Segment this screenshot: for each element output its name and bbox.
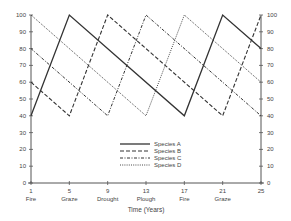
line-chart: 0010102020303040405050606070708080909010… — [0, 0, 291, 221]
y-tick-label-right: 50 — [267, 96, 274, 102]
x-tick-event-label: Fire — [26, 196, 37, 202]
x-tick-label: 1 — [29, 188, 33, 194]
y-tick-label-left: 30 — [19, 130, 26, 136]
series-lines — [31, 15, 261, 116]
x-tick-label: 5 — [68, 188, 72, 194]
y-tick-label-right: 0 — [267, 180, 271, 186]
y-tick-label-left: 100 — [16, 12, 27, 18]
y-tick-label-right: 70 — [267, 62, 274, 68]
y-tick-label-left: 40 — [19, 113, 26, 119]
y-tick-label-right: 10 — [267, 163, 274, 169]
axes: 0010102020303040405050606070708080909010… — [16, 12, 278, 202]
x-axis-title: Time (Years) — [128, 206, 165, 214]
y-tick-label-right: 90 — [267, 29, 274, 35]
x-tick-event-label: Fire — [179, 196, 190, 202]
y-tick-label-left: 50 — [19, 96, 26, 102]
x-tick-label: 9 — [106, 188, 110, 194]
x-tick-label: 25 — [258, 188, 265, 194]
x-tick-event-label: Graze — [61, 196, 78, 202]
y-tick-label-right: 60 — [267, 79, 274, 85]
legend-label: Species D — [154, 162, 182, 168]
legend-label: Species B — [154, 148, 181, 154]
x-tick-event-label: Plough — [137, 196, 156, 202]
x-tick-event-label: Drought — [97, 196, 119, 202]
y-tick-label-right: 40 — [267, 113, 274, 119]
legend-label: Species C — [154, 155, 182, 161]
legend: Species ASpecies BSpecies CSpecies D — [120, 141, 182, 168]
series-line-species-d — [31, 15, 261, 116]
x-tick-label: 21 — [219, 188, 226, 194]
y-tick-label-left: 20 — [19, 146, 26, 152]
y-tick-label-right: 100 — [267, 12, 278, 18]
y-tick-label-left: 10 — [19, 163, 26, 169]
y-tick-label-left: 0 — [23, 180, 27, 186]
series-line-species-c — [31, 15, 261, 116]
y-tick-label-right: 20 — [267, 146, 274, 152]
series-line-species-a — [31, 15, 261, 116]
series-line-species-b — [31, 15, 261, 116]
legend-label: Species A — [154, 141, 181, 147]
y-tick-label-right: 80 — [267, 46, 274, 52]
y-tick-label-left: 80 — [19, 46, 26, 52]
y-tick-label-left: 60 — [19, 79, 26, 85]
x-tick-label: 13 — [143, 188, 150, 194]
y-tick-label-right: 30 — [267, 130, 274, 136]
y-tick-label-left: 90 — [19, 29, 26, 35]
x-tick-event-label: Graze — [214, 196, 231, 202]
y-tick-label-left: 70 — [19, 62, 26, 68]
x-tick-label: 17 — [181, 188, 188, 194]
